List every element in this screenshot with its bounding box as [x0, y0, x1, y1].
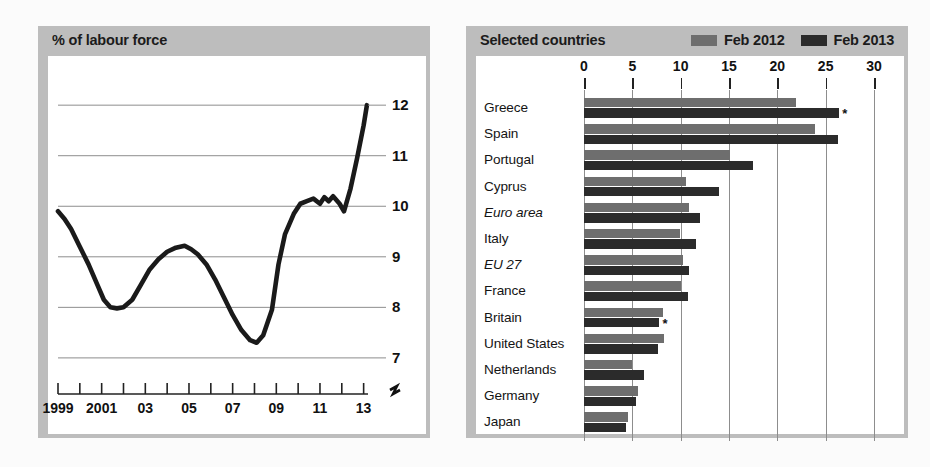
bar-chart-gridline: [874, 90, 875, 441]
bar-chart-x-tick-label: 10: [673, 58, 689, 74]
bar-chart-x-tick: [681, 78, 683, 89]
line-chart-x-tick-label: 11: [313, 400, 328, 416]
bar-segment: [584, 292, 688, 301]
bar-segment: [584, 308, 663, 317]
bar-category-label: Cyprus: [484, 179, 526, 194]
line-chart-y-tick-label: 10: [392, 197, 409, 214]
line-chart-x-tick-label: 1999: [42, 400, 73, 416]
bar-chart-x-tick-label: 20: [770, 58, 786, 74]
bar-segment: [584, 412, 628, 421]
bar-segment: [584, 150, 730, 159]
bar-segment: [584, 203, 689, 212]
bar-segment: [584, 108, 839, 117]
axis-break-icon: [390, 386, 400, 394]
bar-chart-x-tick: [584, 78, 586, 89]
bar-chart-x-tick: [729, 78, 731, 89]
line-chart-panel: % of labour force 1211109871999200103050…: [38, 26, 430, 438]
bar-category-label: Germany: [484, 388, 539, 403]
bar-chart-x-tick-label: 0: [580, 58, 588, 74]
bar-segment: [584, 255, 683, 264]
line-chart-y-tick-label: 8: [392, 298, 400, 315]
legend-label-v2012: Feb 2012: [724, 32, 784, 48]
bar-chart-x-tick-label: 5: [628, 58, 636, 74]
bar-chart-x-tick: [826, 78, 828, 89]
bar-chart-plot-area: 051015202530Greece*SpainPortugalCyprusEu…: [476, 56, 904, 434]
bar-segment: [584, 281, 681, 290]
line-chart-y-tick-label: 9: [392, 248, 400, 265]
bar-chart-x-tick-label: 25: [818, 58, 834, 74]
legend-item-v2012: Feb 2012: [691, 32, 784, 48]
line-chart-y-tick-label: 12: [392, 96, 409, 113]
bar-segment: [584, 334, 664, 343]
bar-category-label: EU 27: [484, 257, 521, 272]
bar-chart-x-tick-label: 15: [721, 58, 737, 74]
bar-chart-x-tick: [632, 78, 634, 89]
bar-chart-legend: Feb 2012Feb 2013: [691, 32, 894, 48]
bar-segment: [584, 98, 796, 107]
bar-chart-x-tick: [777, 78, 779, 89]
bar-segment: [584, 229, 680, 238]
line-chart-x-tick-label: 07: [225, 400, 241, 416]
bar-category-label: Britain: [484, 310, 522, 325]
line-chart-x-tick-label: 2001: [86, 400, 117, 416]
bar-chart-panel: Selected countries Feb 2012Feb 2013 0510…: [466, 26, 908, 438]
bar-segment: [584, 213, 700, 222]
bar-chart-x-tick-label: 30: [866, 58, 882, 74]
bar-segment: [584, 177, 686, 186]
line-chart-y-tick-label: 7: [392, 349, 400, 366]
bar-segment: [584, 266, 689, 275]
bar-segment: [584, 386, 638, 395]
line-chart-x-tick-label: 13: [356, 400, 372, 416]
bar-chart-bars: 051015202530Greece*SpainPortugalCyprusEu…: [476, 56, 904, 434]
bar-segment: [584, 344, 658, 353]
bar-footnote-marker: *: [842, 107, 847, 120]
bar-category-label: France: [484, 283, 526, 298]
bar-category-label: Italy: [484, 231, 508, 246]
bar-segment: [584, 239, 696, 248]
bar-category-label: Netherlands: [484, 362, 556, 377]
line-chart-title: % of labour force: [52, 32, 167, 48]
bar-category-label: Spain: [484, 126, 518, 141]
bar-chart-title: Selected countries: [480, 32, 605, 48]
line-chart-plot-area: 12111098719992001030507091113: [48, 56, 426, 434]
bar-segment: [584, 397, 636, 406]
bar-segment: [584, 370, 644, 379]
bar-category-label: United States: [484, 336, 564, 351]
bar-category-label: Greece: [484, 100, 528, 115]
bar-segment: [584, 124, 815, 133]
line-chart-svg: [48, 56, 426, 434]
bar-footnote-marker: *: [662, 317, 667, 330]
bar-chart-x-tick: [874, 78, 876, 89]
line-chart-x-tick-label: 09: [269, 400, 285, 416]
bar-segment: [584, 423, 626, 432]
legend-item-v2013: Feb 2013: [801, 32, 894, 48]
line-chart-x-tick-label: 03: [138, 400, 154, 416]
bar-segment: [584, 318, 659, 327]
bar-category-label: Euro area: [484, 205, 543, 220]
figure-container: % of labour force 1211109871999200103050…: [0, 0, 930, 467]
line-chart-x-tick-label: 05: [181, 400, 197, 416]
bar-segment: [584, 360, 632, 369]
bar-segment: [584, 161, 753, 170]
bar-category-label: Portugal: [484, 152, 534, 167]
bar-segment: [584, 135, 838, 144]
bar-category-label: Japan: [484, 414, 521, 429]
legend-label-v2013: Feb 2013: [834, 32, 894, 48]
line-chart-y-tick-label: 11: [392, 147, 408, 164]
legend-swatch-v2013: [801, 35, 827, 46]
bar-segment: [584, 187, 719, 196]
legend-swatch-v2012: [691, 35, 717, 46]
